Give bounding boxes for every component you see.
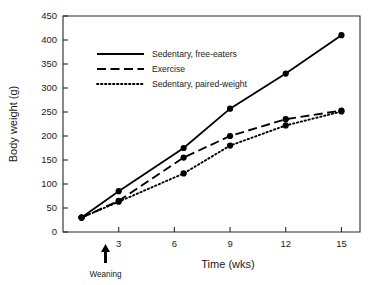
y-axis-ticks bbox=[63, 16, 68, 232]
weaning-arrow-icon bbox=[101, 244, 110, 263]
y-tick-label: 200 bbox=[41, 130, 57, 141]
series-1 bbox=[78, 32, 344, 221]
y-tick-label: 50 bbox=[46, 202, 57, 213]
data-point bbox=[338, 108, 344, 114]
data-point bbox=[227, 106, 233, 112]
y-tick-label: 350 bbox=[41, 58, 57, 69]
data-point bbox=[338, 32, 344, 38]
data-point bbox=[283, 116, 289, 122]
y-tick-label: 300 bbox=[41, 82, 57, 93]
y-tick-label: 150 bbox=[41, 154, 57, 165]
legend-label: Sedentary, free-eaters bbox=[152, 49, 237, 59]
weaning-annotation: Weaning bbox=[89, 244, 122, 279]
data-point bbox=[181, 155, 187, 161]
data-point bbox=[181, 145, 187, 151]
y-tick-label: 450 bbox=[41, 10, 57, 21]
data-point bbox=[283, 71, 289, 77]
x-tick-label: 3 bbox=[116, 238, 121, 249]
y-tick-label: 400 bbox=[41, 34, 57, 45]
weaning-label: Weaning bbox=[89, 270, 122, 279]
data-point bbox=[116, 199, 122, 205]
data-point bbox=[116, 188, 122, 194]
data-point bbox=[283, 122, 289, 128]
legend-label: Sedentary, paired-weight bbox=[152, 79, 248, 89]
data-point bbox=[78, 215, 84, 221]
series-layer bbox=[78, 32, 344, 221]
data-point bbox=[227, 133, 233, 139]
legend-item: Sedentary, free-eaters bbox=[97, 49, 237, 59]
chart-legend: Sedentary, free-eatersExerciseSedentary,… bbox=[97, 49, 248, 89]
x-tick-label: 12 bbox=[280, 238, 291, 249]
legend-item: Sedentary, paired-weight bbox=[97, 79, 248, 89]
y-axis-tick-labels: 050100150200250300350400450 bbox=[41, 10, 57, 237]
x-axis-title: Time (wks) bbox=[201, 258, 254, 270]
data-point bbox=[227, 143, 233, 149]
x-tick-label: 15 bbox=[336, 238, 347, 249]
line-chart: 050100150200250300350400450 3691215 Body… bbox=[0, 0, 375, 285]
chart-figure: 050100150200250300350400450 3691215 Body… bbox=[0, 0, 375, 285]
x-tick-label: 6 bbox=[172, 238, 177, 249]
x-tick-label: 9 bbox=[227, 238, 232, 249]
data-point bbox=[181, 170, 187, 176]
x-axis-ticks bbox=[119, 227, 342, 232]
y-tick-label: 100 bbox=[41, 178, 57, 189]
legend-item: Exercise bbox=[97, 64, 185, 74]
y-tick-label: 250 bbox=[41, 106, 57, 117]
y-tick-label: 0 bbox=[52, 226, 57, 237]
x-axis-tick-labels: 3691215 bbox=[116, 238, 347, 249]
y-axis-title: Body weight (g) bbox=[7, 86, 19, 162]
legend-label: Exercise bbox=[152, 64, 185, 74]
